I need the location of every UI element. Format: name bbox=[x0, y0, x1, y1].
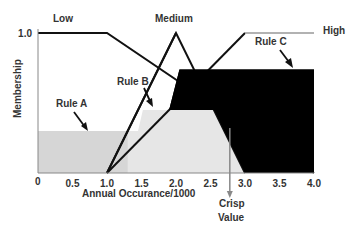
rule-c-arrow bbox=[280, 50, 293, 68]
curve-label-high: High bbox=[323, 25, 345, 36]
x-tick-label: 0 bbox=[35, 176, 41, 187]
y-axis-label: Membership bbox=[12, 59, 23, 118]
x-tick-label: 0.5 bbox=[66, 178, 80, 189]
crisp-value-arrowhead bbox=[227, 191, 233, 198]
curve-label-low: Low bbox=[53, 13, 73, 24]
x-tick-label: 3.0 bbox=[238, 178, 252, 189]
x-tick-label: 3.5 bbox=[273, 178, 287, 189]
crisp-value-label-line2: Value bbox=[218, 212, 245, 223]
y-tick-label: 1.0 bbox=[18, 28, 32, 39]
x-tick-label: 4.0 bbox=[307, 178, 321, 189]
rule-c-label: Rule C bbox=[255, 36, 287, 47]
y-tick-labels: 1.0 bbox=[18, 28, 32, 39]
crisp-value-label-line1: Crisp bbox=[219, 198, 245, 209]
rule-a-label: Rule A bbox=[56, 98, 87, 109]
x-axis-label: Annual Occurance/1000 bbox=[82, 188, 196, 199]
rule-a-arrow bbox=[74, 112, 88, 131]
region-rule-a bbox=[38, 131, 138, 173]
fuzzy-membership-chart: 00.51.01.52.02.53.03.54.0 1.0 Low Medium… bbox=[0, 0, 357, 232]
x-tick-label: 2.5 bbox=[204, 178, 218, 189]
curve-label-medium: Medium bbox=[155, 13, 193, 24]
rule-b-label: Rule B bbox=[117, 76, 149, 87]
